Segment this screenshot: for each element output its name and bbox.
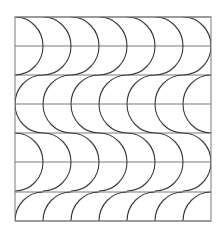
half-circle-arc bbox=[15, 192, 43, 234]
half-circle-arc bbox=[99, 192, 127, 234]
half-circle-arc bbox=[183, 192, 211, 234]
grid-lines bbox=[15, 17, 211, 221]
outer-frame bbox=[15, 17, 211, 221]
half-circle-arc bbox=[43, 192, 71, 234]
wave-pattern-figure bbox=[0, 0, 224, 234]
half-circle-arc bbox=[71, 192, 99, 234]
half-circle-arc bbox=[127, 192, 155, 234]
half-circle-arc bbox=[155, 192, 183, 234]
arc-pattern bbox=[15, 17, 211, 234]
